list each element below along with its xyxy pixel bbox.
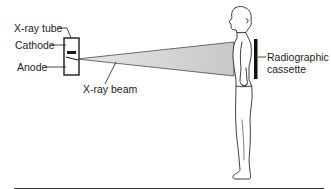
label-anode: Anode — [17, 61, 47, 73]
label-cassette-line1: Radiographic — [267, 51, 329, 63]
label-cassette-line2: cassette — [267, 63, 306, 75]
xray-tube-icon — [64, 38, 79, 75]
patient-figure-icon — [229, 7, 252, 180]
radiographic-cassette-icon — [254, 39, 258, 79]
label-xray-tube: X-ray tube — [14, 22, 62, 34]
label-xray-beam: X-ray beam — [83, 83, 137, 95]
label-cathode: Cathode — [15, 39, 55, 51]
xray-beam-cone — [77, 42, 234, 76]
bottom-rule — [14, 188, 324, 189]
